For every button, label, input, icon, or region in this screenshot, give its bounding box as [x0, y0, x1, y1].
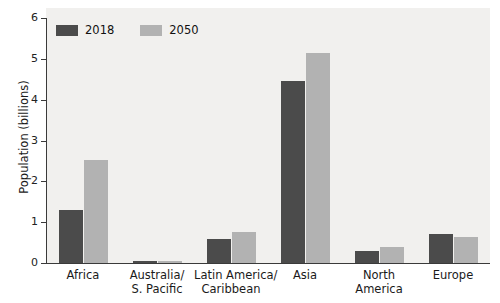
bar-group	[59, 8, 108, 263]
bar-2018	[207, 239, 231, 263]
bar-2018	[59, 210, 83, 263]
bar-2050	[158, 261, 182, 263]
y-axis-tick-mark	[41, 263, 46, 264]
bar-2018	[281, 81, 305, 263]
y-axis-tick: 0	[0, 263, 46, 264]
category-label: Africa	[46, 268, 120, 282]
bar-group	[281, 8, 330, 263]
category-label-line: Latin America/	[194, 268, 268, 282]
bar-group	[355, 8, 404, 263]
x-axis-line	[46, 263, 490, 264]
bars-layer	[46, 8, 490, 263]
bar-2050	[380, 247, 404, 263]
bar-2050	[232, 232, 256, 263]
category-label: Asia	[268, 268, 342, 282]
category-label-line: Caribbean	[194, 282, 268, 296]
category-label: Latin America/Caribbean	[194, 268, 268, 296]
y-axis-tick-label: 0	[4, 257, 38, 268]
bar-group	[133, 8, 182, 263]
category-label-line: America	[342, 282, 416, 296]
category-label: NorthAmerica	[342, 268, 416, 296]
bar-2050	[454, 237, 478, 263]
category-label: Australia/S. Pacific	[120, 268, 194, 296]
bar-2050	[306, 53, 330, 263]
population-bar-chart: 0123456 Population (billions) 20182050 A…	[0, 0, 500, 303]
x-axis-category-labels: AfricaAustralia/S. PacificLatin America/…	[46, 268, 490, 303]
y-axis-tick: 6	[0, 18, 46, 19]
y-axis-title: Population (billions)	[17, 37, 31, 237]
category-label-line: Australia/	[120, 268, 194, 282]
bar-group	[429, 8, 478, 263]
bar-2050	[84, 160, 108, 263]
category-label-line: S. Pacific	[120, 282, 194, 296]
y-axis-tick-label: 6	[4, 12, 38, 23]
bar-2018	[355, 251, 379, 263]
category-label-line: North	[342, 268, 416, 282]
bar-2018	[133, 261, 157, 263]
category-label-line: Asia	[268, 268, 342, 282]
bar-2018	[429, 234, 453, 263]
category-label: Europe	[416, 268, 490, 282]
category-label-line: Africa	[46, 268, 120, 282]
bar-group	[207, 8, 256, 263]
category-label-line: Europe	[416, 268, 490, 282]
